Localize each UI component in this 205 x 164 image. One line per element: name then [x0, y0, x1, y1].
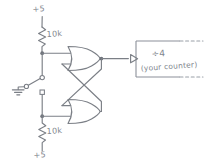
switch-lever[interactable]: [27, 79, 40, 86]
label-supply-top: +5: [32, 5, 45, 14]
nor-gate-top: [42, 47, 103, 71]
schematic-canvas: +5 10k 10k +5 ÷4 (your counter): [0, 0, 205, 164]
pullup-resistor-top: [39, 27, 46, 53]
ground-symbol: [12, 90, 24, 95]
label-resistor-top: 10k: [46, 30, 62, 39]
label-counter-divider: ÷4: [151, 49, 165, 59]
spdt-switch[interactable]: [18, 75, 44, 94]
nor-gate-bottom-body: [68, 100, 100, 124]
wire-switch-to-ground: [18, 87, 24, 90]
label-supply-bottom: +5: [33, 151, 46, 160]
nor-gate-bottom: [42, 100, 101, 124]
schematic-drawing: [0, 0, 205, 164]
switch-contact-upper[interactable]: [40, 75, 44, 79]
switch-contact-lower[interactable]: [40, 90, 44, 94]
bottom-supply-branch: [39, 114, 46, 151]
pullup-resistor-bottom: [39, 117, 46, 151]
label-resistor-bottom: 10k: [46, 127, 62, 136]
top-supply-branch: [39, 17, 46, 56]
switch-pivot[interactable]: [24, 84, 28, 88]
nor-gate-top-body: [68, 47, 100, 71]
